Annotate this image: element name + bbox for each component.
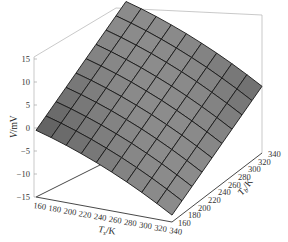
x-tick-label: 260: [108, 214, 122, 226]
x-axis-label: Ts/K: [98, 224, 117, 237]
z-tick-label: 10: [22, 77, 31, 87]
z-tick-label: −5: [21, 146, 30, 156]
z-tick-label: 15: [22, 54, 31, 64]
x-tick-label: 200: [63, 206, 77, 218]
z-tick-label: −15: [17, 192, 30, 202]
surface-plot: 151050−5−10−15 1601802002202402602803003…: [0, 0, 288, 242]
z-axis-label: V/mV: [9, 115, 19, 138]
y-tick-label: 340: [268, 149, 281, 159]
z-tick-label: −10: [17, 169, 30, 179]
x-tick-label: 240: [93, 211, 107, 223]
x-tick-label: 320: [154, 222, 168, 234]
x-tick-label: 160: [33, 200, 47, 212]
z-tick-label: 0: [26, 123, 30, 133]
z-tick-label: 5: [26, 100, 30, 110]
x-tick-label: 300: [138, 220, 152, 232]
x-tick-label: 220: [78, 208, 92, 220]
x-tick-label: 280: [123, 217, 137, 229]
x-tick-label: 180: [48, 203, 62, 215]
